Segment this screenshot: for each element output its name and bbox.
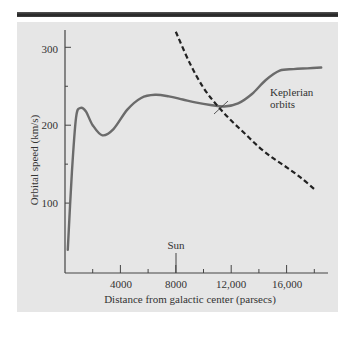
keplerian-label-line1: Keplerian <box>270 86 314 98</box>
x-tick-label-4000: 4000 <box>110 278 133 290</box>
x-axis-title: Distance from galactic center (parsecs) <box>104 293 276 306</box>
y-tick-label-200: 200 <box>42 119 59 131</box>
y-tick-label-100: 100 <box>42 197 59 209</box>
y-tick-label-300: 300 <box>42 43 59 55</box>
rotation-curve-chart: 300 200 100 4000 8000 12,000 16,000 Dist… <box>0 0 356 338</box>
keplerian-label-line2: orbits <box>270 98 295 110</box>
y-axis-title: Orbital speed (km/s) <box>28 114 41 205</box>
x-ticks <box>93 265 315 273</box>
y-ticks <box>65 47 71 203</box>
x-tick-label-12000: 12,000 <box>216 278 247 290</box>
x-tick-label-16000: 16,000 <box>272 278 303 290</box>
sun-label: Sun <box>167 239 185 251</box>
keplerian-curve <box>176 32 314 189</box>
axes <box>65 30 328 273</box>
x-tick-label-8000: 8000 <box>165 278 188 290</box>
